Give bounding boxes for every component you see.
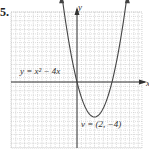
curve-arrow-right xyxy=(125,0,130,3)
vertex-label: v = (2, −4) xyxy=(81,119,121,129)
y-axis-label: y xyxy=(77,2,82,12)
parabola-chart: 5. x y y = x² − 4x v = (2, −4) xyxy=(0,0,149,162)
x-axis-label: x xyxy=(145,78,149,88)
curve-arrow-left xyxy=(59,0,64,3)
problem-number: 5. xyxy=(0,5,9,19)
equation-label: y = x² − 4x xyxy=(19,66,60,76)
